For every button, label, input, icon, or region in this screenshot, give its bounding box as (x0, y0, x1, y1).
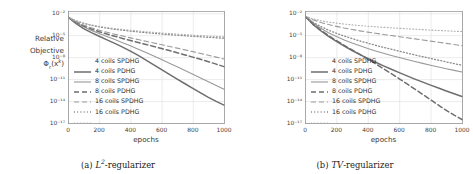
y-tick-label: 10⁻¹⁴ (44, 98, 65, 104)
legend-swatch-line (311, 80, 328, 81)
y-tick-label: 10⁻¹⁷ (281, 120, 302, 126)
x-tick-label: 800 (185, 127, 201, 133)
x-tick-label: 0 (60, 127, 76, 133)
legend-item-4-coils-spdhg: 4 coils SPDHG (311, 55, 380, 65)
caption-b-label: (b) (317, 160, 329, 170)
caption-b-math: TV (331, 160, 343, 170)
legend-swatch-line (74, 90, 91, 91)
x-tick-label: 1000 (216, 127, 232, 133)
x-tick-label: 600 (391, 127, 407, 133)
legend-swatch-line (311, 60, 328, 61)
x-tick-label: 200 (91, 127, 107, 133)
legend-item-4-coils-spdhg: 4 coils SPDHG (74, 55, 143, 65)
legend-swatch-line (74, 100, 91, 101)
legend-item-label: 8 coils SPDHG (332, 77, 376, 84)
y-tick-label: 10⁻⁵ (44, 32, 65, 38)
panel-a: Relative Objective Φr(xk) (a)L2-regulari… (0, 0, 236, 174)
panel-b: (b)TV-regularizer 0200400600800100010⁻²1… (237, 0, 473, 174)
legend-swatch-line (74, 70, 91, 71)
y-tick-label: 10⁻² (44, 10, 65, 16)
figure-convergence-comparison: Relative Objective Φr(xk) (a)L2-regulari… (0, 0, 473, 174)
y-tick-label: 10⁻¹⁴ (281, 98, 302, 104)
y-tick-label: 10⁻¹⁷ (44, 120, 65, 126)
y-tick-label: 10⁻⁵ (281, 32, 302, 38)
legend-swatch-line (74, 111, 91, 112)
legend-item-label: 4 coils PDHG (95, 67, 135, 74)
x-tick-label: 0 (297, 127, 313, 133)
legend-item-label: 4 coils SPDHG (95, 57, 139, 64)
caption-a: (a)L2-regularizer (0, 158, 236, 170)
x-axis-label: epochs (68, 135, 224, 144)
x-tick-label: 600 (154, 127, 170, 133)
y-tick-label: 10⁻² (281, 10, 302, 16)
legend-swatch-line (311, 90, 328, 91)
legend-item-label: 4 coils SPDHG (332, 57, 376, 64)
legend-swatch-line (74, 60, 91, 61)
caption-a-rest: -regularizer (105, 160, 155, 170)
y-tick-label: 10⁻¹¹ (281, 76, 302, 82)
legend-swatch-line (311, 100, 328, 101)
legend-swatch-line (311, 111, 328, 112)
legend-item-label: 16 coils SPDHG (332, 97, 380, 104)
caption-b: (b)TV-regularizer (237, 160, 473, 170)
y-tick-label: 10⁻¹¹ (44, 76, 65, 82)
legend-item-label: 8 coils PDHG (332, 87, 372, 94)
x-axis-label: epochs (305, 135, 462, 144)
legend-swatch-line (311, 70, 328, 71)
x-tick-label: 800 (423, 127, 439, 133)
x-tick-label: 1000 (454, 127, 470, 133)
legend-item-label: 16 coils PDHG (332, 108, 376, 115)
legend: 4 coils SPDHG4 coils PDHG8 coils SPDHG8 … (74, 55, 143, 116)
legend: 4 coils SPDHG4 coils PDHG8 coils SPDHG8 … (311, 55, 380, 116)
x-tick-label: 400 (360, 127, 376, 133)
y-tick-label: 10⁻⁸ (44, 54, 65, 60)
legend-item-label: 4 coils PDHG (332, 67, 372, 74)
x-tick-label: 200 (328, 127, 344, 133)
legend-item-label: 16 coils SPDHG (95, 97, 143, 104)
legend-item-label: 8 coils SPDHG (95, 77, 139, 84)
caption-a-label: (a) (81, 160, 93, 170)
caption-b-rest: -regularizer (343, 160, 393, 170)
x-tick-label: 400 (122, 127, 138, 133)
legend-swatch-line (74, 80, 91, 81)
legend-item-label: 16 coils PDHG (95, 108, 139, 115)
y-tick-label: 10⁻⁸ (281, 54, 302, 60)
legend-item-label: 8 coils PDHG (95, 87, 135, 94)
